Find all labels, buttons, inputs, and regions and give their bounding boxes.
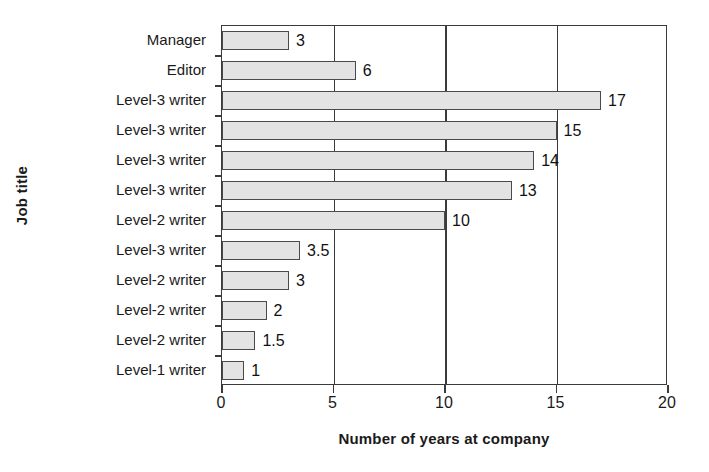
y-axis-title-text: Job title bbox=[14, 165, 31, 224]
x-axis-tick-label: 15 bbox=[547, 394, 565, 412]
bar-row: 1.5 bbox=[222, 326, 666, 356]
category-label: Level-2 writer bbox=[40, 295, 214, 325]
bar bbox=[222, 241, 300, 260]
bar-value-label: 3.5 bbox=[300, 236, 329, 266]
bar-row: 15 bbox=[222, 116, 666, 146]
bar-value-label: 1.5 bbox=[255, 326, 284, 356]
bar-row: 3 bbox=[222, 26, 666, 56]
x-axis-tick bbox=[444, 385, 446, 393]
x-axis-tick-labels: 05101520 bbox=[221, 394, 667, 418]
bar bbox=[222, 121, 557, 140]
bar-value-label: 3 bbox=[289, 26, 305, 56]
category-label-list: ManagerEditorLevel-3 writerLevel-3 write… bbox=[40, 25, 214, 385]
category-label: Level-3 writer bbox=[40, 175, 214, 205]
bar-value-label: 17 bbox=[601, 86, 626, 116]
bar bbox=[222, 151, 534, 170]
bar-value-label: 2 bbox=[267, 296, 283, 326]
category-label: Manager bbox=[40, 25, 214, 55]
category-label: Level-3 writer bbox=[40, 235, 214, 265]
bar-row: 2 bbox=[222, 296, 666, 326]
bar-row: 13 bbox=[222, 176, 666, 206]
x-axis-tick-label: 10 bbox=[435, 394, 453, 412]
bar-row: 1 bbox=[222, 356, 666, 386]
bar bbox=[222, 181, 512, 200]
bar-value-label: 14 bbox=[534, 146, 559, 176]
bar bbox=[222, 31, 289, 50]
category-label: Level-2 writer bbox=[40, 265, 214, 295]
x-axis-tick bbox=[556, 385, 558, 393]
x-axis-tick-label: 20 bbox=[658, 394, 676, 412]
category-label: Level-3 writer bbox=[40, 115, 214, 145]
bar-row: 10 bbox=[222, 206, 666, 236]
bar bbox=[222, 361, 244, 380]
x-axis-tick bbox=[333, 385, 335, 393]
x-axis-ticks bbox=[221, 385, 667, 394]
category-label: Editor bbox=[40, 55, 214, 85]
bars-layer: 3617151413103.5321.51 bbox=[222, 26, 666, 384]
bar-value-label: 13 bbox=[512, 176, 537, 206]
category-label: Level-3 writer bbox=[40, 145, 214, 175]
bar-row: 17 bbox=[222, 86, 666, 116]
bar-value-label: 1 bbox=[244, 356, 260, 386]
category-label: Level-2 writer bbox=[40, 325, 214, 355]
bar-value-label: 3 bbox=[289, 266, 305, 296]
x-axis-tick-label: 0 bbox=[217, 394, 226, 412]
category-label: Level-2 writer bbox=[40, 205, 214, 235]
bar bbox=[222, 211, 445, 230]
bar bbox=[222, 91, 601, 110]
y-axis-title: Job title bbox=[6, 0, 38, 390]
bar bbox=[222, 301, 267, 320]
bar-row: 3 bbox=[222, 266, 666, 296]
bar-value-label: 15 bbox=[557, 116, 582, 146]
bar-value-label: 10 bbox=[445, 206, 470, 236]
plot-area: 3617151413103.5321.51 bbox=[221, 25, 667, 385]
bar bbox=[222, 271, 289, 290]
bar bbox=[222, 61, 356, 80]
x-axis-title: Number of years at company bbox=[221, 430, 667, 447]
x-axis-tick bbox=[221, 385, 223, 393]
x-axis-tick bbox=[667, 385, 669, 393]
bar-row: 6 bbox=[222, 56, 666, 86]
bar-value-label: 6 bbox=[356, 56, 372, 86]
x-axis-tick-label: 5 bbox=[328, 394, 337, 412]
bar bbox=[222, 331, 255, 350]
bar-row: 3.5 bbox=[222, 236, 666, 266]
category-label: Level-1 writer bbox=[40, 355, 214, 385]
category-label: Level-3 writer bbox=[40, 85, 214, 115]
bar-row: 14 bbox=[222, 146, 666, 176]
bar-chart: Job title ManagerEditorLevel-3 writerLev… bbox=[0, 0, 709, 472]
